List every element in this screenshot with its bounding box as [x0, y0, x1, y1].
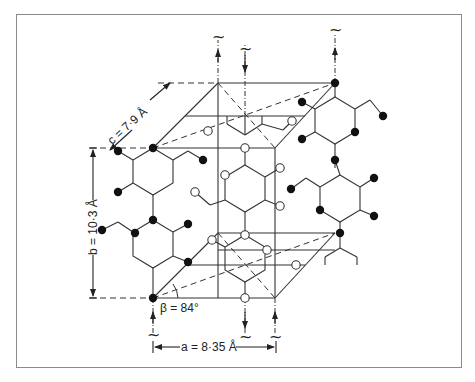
c-dimension-label: c = 7·9 Å: [104, 104, 150, 148]
tilde-symbol: ~: [329, 20, 342, 39]
unit-cell-edges: [153, 83, 335, 298]
tilde-symbol: ~: [239, 327, 252, 346]
b-dimension-label: b = 10·3 Å: [85, 199, 100, 255]
tilde-symbol: ~: [239, 39, 252, 58]
open-atoms: [191, 117, 300, 302]
direction-arrows: [153, 48, 335, 328]
crystal-structure-diagram: ~ ~ ~ ~ ~ ~ b = 10·3 Å c = 7·9 Å a = 8·3…: [0, 0, 475, 382]
a-dimension-label: a = 8·35 Å: [181, 339, 237, 354]
tilde-symbol: ~: [212, 27, 225, 46]
tilde-symbol: ~: [147, 325, 160, 344]
axis-dashdot-lines: [153, 35, 335, 335]
beta-angle-label: β = 84°: [160, 301, 199, 315]
